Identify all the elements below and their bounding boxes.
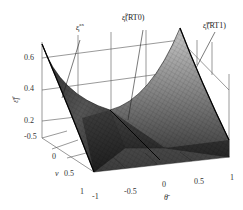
z-tick-0.2: 0.2	[24, 117, 34, 125]
x-tick-0: 0	[162, 181, 166, 189]
y-tick-0: 0	[52, 153, 56, 161]
annotation-rt1: εmf(RT1)	[203, 20, 226, 31]
x-tick-1: 1	[230, 174, 234, 182]
annotation-ax: εaxf	[76, 22, 80, 33]
annotation-rt0: ε0f(RT0)	[122, 12, 144, 23]
z-tick-0.4: 0.4	[24, 85, 34, 93]
z-tick-0.6: 0.6	[24, 54, 34, 62]
surface-plot	[0, 0, 243, 210]
x-tick--1: -1	[92, 193, 99, 201]
x-tick-0.5: 0.5	[194, 178, 204, 186]
y-tick-1: 1	[80, 188, 84, 196]
y-tick--0.5: -0.5	[24, 133, 37, 141]
x-tick--0.5: -0.5	[124, 188, 137, 196]
z-axis-label: ε̄f	[12, 97, 20, 102]
x-axis-label: θ̄	[164, 194, 168, 202]
y-axis-label: ν	[55, 170, 59, 178]
y-tick-0.5: 0.5	[64, 170, 74, 178]
